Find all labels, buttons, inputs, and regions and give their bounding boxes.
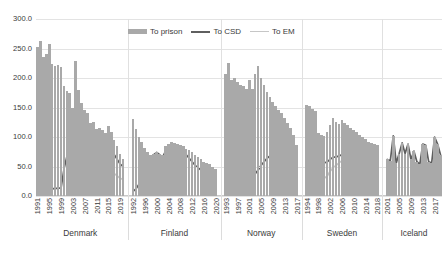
x-axis-tick-label: 2014 (362, 198, 371, 214)
x-axis-tick-label: 2012 (188, 198, 197, 214)
group-separator (382, 19, 383, 196)
x-axis-tick-label: 1994 (303, 198, 312, 214)
legend-label: To CSD (213, 27, 241, 36)
group-label-iceland: Iceland (400, 228, 427, 238)
group-label-denmark: Denmark (63, 228, 97, 238)
legend: To prisonTo CSDTo EM (128, 27, 295, 36)
x-axis-tick-label: 2003 (69, 198, 78, 214)
group-label-finland: Finland (161, 228, 188, 238)
x-axis-tick-label: 1997 (234, 198, 243, 214)
group-divider (302, 196, 303, 240)
x-axis-tick-label: 2013 (419, 198, 428, 214)
legend-label: To prison (150, 27, 182, 36)
x-axis-tick-label: 2016 (200, 198, 209, 214)
gridline (36, 19, 442, 20)
x-axis-tick-label: 2007 (81, 198, 90, 214)
gridline (36, 78, 442, 79)
x-axis-tick-label: 2013 (281, 198, 290, 214)
x-axis-tick-label: 2018 (373, 198, 382, 214)
group-separator (128, 19, 129, 196)
legend-item-to-em[interactable]: To EM (250, 27, 295, 36)
x-axis-tick-label: 2008 (176, 198, 185, 214)
y-axis-tick-label: 0.0 (21, 192, 32, 200)
group-divider (128, 196, 129, 240)
bar (376, 145, 379, 196)
y-axis: 0.050.0100.0150.0200.0250.0300.0 (0, 0, 34, 254)
x-axis-tick-label: 1991 (33, 198, 42, 214)
x-axis-tick-label: 2010 (350, 198, 359, 214)
gridline (36, 196, 442, 197)
x-axis-tick-label: 2009 (269, 198, 278, 214)
y-axis-tick-label: 100.0 (13, 133, 32, 141)
group-divider (382, 196, 383, 240)
x-axis-tick-label: 2002 (326, 198, 335, 214)
group-separator (221, 19, 222, 196)
legend-item-to-csd[interactable]: To CSD (191, 27, 241, 36)
plot-area (36, 19, 442, 196)
x-axis-tick-label: 2005 (395, 198, 404, 214)
bar (295, 145, 298, 196)
x-axis-group-labels: DenmarkFinlandNorwaySwedenIceland (36, 228, 442, 244)
x-axis-tick-label: 2019 (116, 198, 125, 214)
legend-swatch-icon (128, 29, 147, 34)
x-axis-tick-label: 1998 (314, 198, 323, 214)
x-axis-tick-label: 1992 (129, 198, 138, 214)
x-axis-tick-label: 1993 (222, 198, 231, 214)
x-axis-tick-label: 1999 (57, 198, 66, 214)
group-separator (302, 19, 303, 196)
x-axis-year-labels: 1991199519992003200720112015201919921996… (36, 198, 442, 226)
legend-label: To EM (272, 27, 295, 36)
x-axis-tick-label: 2001 (383, 198, 392, 214)
x-axis-tick-label: 2004 (165, 198, 174, 214)
bar (214, 169, 217, 196)
y-axis-tick-label: 250.0 (13, 45, 32, 53)
group-divider (221, 196, 222, 240)
legend-swatch-icon (250, 31, 269, 33)
x-axis-tick-label: 2000 (153, 198, 162, 214)
legend-item-to-prison[interactable]: To prison (128, 27, 182, 36)
x-axis-tick-label: 2011 (93, 198, 102, 214)
gridline (36, 49, 442, 50)
x-axis-tick-label: 2017 (431, 198, 440, 214)
y-axis-tick-label: 300.0 (13, 15, 32, 23)
x-axis-tick-label: 2015 (104, 198, 113, 214)
chart-container: 0.050.0100.0150.0200.0250.0300.0 To pris… (0, 0, 446, 254)
y-axis-tick-label: 50.0 (17, 163, 32, 171)
x-axis-tick-label: 2020 (212, 198, 221, 214)
x-axis-tick-label: 2006 (338, 198, 347, 214)
y-axis-tick-label: 200.0 (13, 74, 32, 82)
x-axis-tick-label: 1996 (141, 198, 150, 214)
x-axis-tick-label: 2009 (407, 198, 416, 214)
bar (439, 155, 442, 196)
group-label-norway: Norway (247, 228, 275, 238)
bar (122, 159, 125, 196)
x-axis-tick-label: 1995 (45, 198, 54, 214)
x-axis-tick-label: 2017 (293, 198, 302, 214)
x-axis-tick-label: 2001 (245, 198, 254, 214)
group-label-sweden: Sweden (327, 228, 357, 238)
legend-swatch-icon (191, 31, 210, 33)
y-axis-tick-label: 150.0 (13, 104, 32, 112)
x-axis-tick-label: 2005 (257, 198, 266, 214)
